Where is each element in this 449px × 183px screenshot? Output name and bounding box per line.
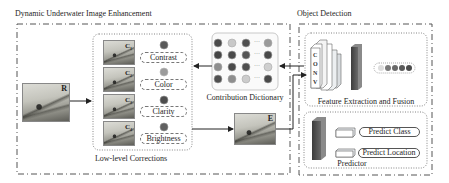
location-head-icon bbox=[336, 149, 355, 157]
dictionary-dot bbox=[214, 51, 222, 59]
contrast-pill: Contrast bbox=[140, 52, 187, 63]
brightness-pill: Brightness bbox=[140, 133, 187, 144]
predictor-label: Predictor bbox=[337, 159, 366, 168]
dictionary-dot bbox=[264, 39, 272, 47]
feature-vector-dot bbox=[378, 65, 384, 71]
input-image-label: R bbox=[61, 85, 67, 93]
dictionary-ellipsis: ··· bbox=[254, 74, 260, 83]
dictionary-dot bbox=[264, 75, 272, 83]
predictor-feature-map-icon bbox=[312, 117, 326, 160]
color-weight-dot bbox=[160, 68, 168, 76]
dictionary-dot bbox=[228, 51, 236, 59]
dictionary-dot bbox=[214, 63, 222, 71]
color-pill: Color bbox=[140, 79, 187, 90]
low-level-corrections-label: Low-level Corrections bbox=[95, 154, 167, 163]
feature-extraction-label: Feature Extraction and Fusion bbox=[318, 97, 415, 106]
dictionary-ellipsis: ··· bbox=[254, 50, 260, 59]
input-image: R bbox=[22, 83, 70, 122]
predict-class-pill: Predict Class bbox=[359, 127, 420, 137]
enhancement-section-title: Dynamic Underwater Image Enhancement bbox=[15, 9, 152, 18]
dictionary-dot bbox=[214, 39, 222, 47]
corrected-image-brightness: C4 bbox=[103, 121, 135, 146]
feature-vector-dot bbox=[399, 65, 405, 71]
dictionary-dot bbox=[264, 63, 272, 71]
enhanced-image: E bbox=[234, 113, 276, 145]
dictionary-dot bbox=[242, 51, 250, 59]
dictionary-dot bbox=[242, 63, 250, 71]
dictionary-dot bbox=[228, 63, 236, 71]
feature-vector-dot bbox=[385, 65, 391, 71]
feature-vector-dot bbox=[392, 65, 398, 71]
corrected-image-label: C2 bbox=[125, 69, 132, 80]
contrast-weight-dot bbox=[160, 41, 168, 49]
dictionary-dot bbox=[228, 75, 236, 83]
diagram-canvas: Dynamic Underwater Image Enhancement Obj… bbox=[0, 0, 449, 183]
conv-letter: N bbox=[313, 70, 317, 77]
corrected-image-label: C1 bbox=[125, 42, 132, 53]
dictionary-ellipsis: ··· bbox=[254, 38, 260, 47]
predict-location-pill: Predict Location bbox=[358, 148, 420, 158]
brightness-weight-dot bbox=[160, 123, 168, 131]
corrected-image-contrast: C1 bbox=[103, 40, 135, 65]
corrected-image-clarity: C3 bbox=[103, 94, 135, 119]
corrected-image-label: C3 bbox=[125, 96, 132, 107]
conv-letter: C bbox=[313, 52, 317, 59]
dictionary-dot bbox=[228, 39, 236, 47]
clarity-pill: Clarity bbox=[140, 106, 187, 117]
dictionary-dot bbox=[242, 39, 250, 47]
corrected-image-label: C4 bbox=[125, 123, 132, 134]
dictionary-dot bbox=[242, 75, 250, 83]
corrected-image-color: C2 bbox=[103, 67, 135, 92]
conv-letter: V bbox=[313, 79, 317, 86]
class-head-icon bbox=[336, 128, 355, 137]
feature-vector-dot bbox=[406, 65, 412, 71]
dictionary-dot bbox=[264, 51, 272, 59]
detection-section-title: Object Detection bbox=[297, 9, 351, 18]
dictionary-dot bbox=[214, 75, 222, 83]
dictionary-ellipsis: ··· bbox=[254, 62, 260, 71]
contribution-dictionary-label: Contribution Dictionary bbox=[206, 93, 283, 102]
clarity-weight-dot bbox=[160, 96, 168, 104]
conv-letter: O bbox=[313, 61, 318, 68]
enhanced-image-label: E bbox=[268, 115, 273, 123]
feature-map-icon bbox=[351, 44, 362, 90]
